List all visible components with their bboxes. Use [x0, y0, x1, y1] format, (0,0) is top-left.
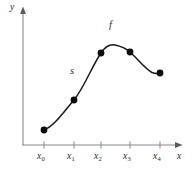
x-axis	[23, 142, 183, 148]
interpolating-spline-curve	[44, 45, 160, 130]
x-axis-arrowhead	[175, 142, 183, 148]
data-point-4	[157, 70, 164, 77]
tick-label-subscript: 0	[41, 155, 44, 162]
y-axis	[20, 7, 26, 146]
y-axis-label: y	[10, 3, 14, 13]
data-point-2	[98, 50, 105, 57]
tick-label-x1: x1	[67, 152, 74, 162]
tick-label-subscript: 4	[157, 155, 160, 162]
data-points	[41, 49, 164, 134]
tick-label-subscript: 1	[71, 155, 74, 162]
tick-label-x3: x3	[123, 152, 130, 162]
figure-canvas	[0, 0, 192, 169]
data-point-1	[71, 97, 78, 104]
data-point-0	[41, 127, 48, 134]
tick-label-x0: x0	[37, 152, 44, 162]
y-axis-arrowhead	[20, 7, 26, 15]
tick-label-x4: x4	[153, 152, 160, 162]
x-axis-label: x	[177, 152, 181, 162]
curve-label-f: f	[109, 20, 112, 31]
tick-label-x2: x2	[94, 152, 101, 162]
data-point-3	[127, 49, 134, 56]
tick-label-subscript: 3	[127, 155, 130, 162]
curve-label-s: s	[70, 66, 74, 77]
spline-figure: y x f s x0x1x2x3x4	[0, 0, 192, 169]
tick-label-subscript: 2	[98, 155, 101, 162]
